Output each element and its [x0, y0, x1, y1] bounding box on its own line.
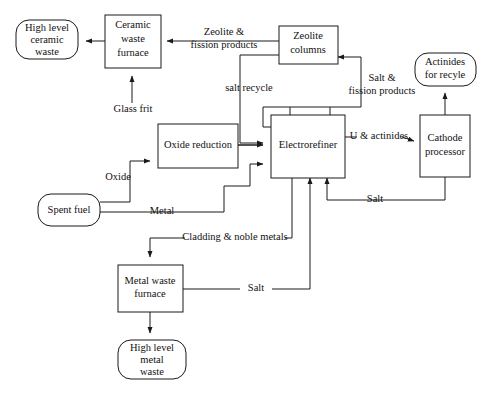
node-label-line-1: Electrorefiner: [279, 139, 338, 150]
edge-label-zeolite-fission-products-line1: Zeolite &: [204, 26, 245, 37]
node-label-line-1: High level: [25, 22, 69, 33]
node-label-line-1: Spent fuel: [48, 204, 91, 215]
node-high-level-metal-waste[interactable]: High level metal waste: [118, 340, 186, 379]
node-actinides-for-recycle[interactable]: Actinides for recyle: [415, 53, 476, 86]
node-label-line-2: columns: [290, 44, 326, 55]
node-label-line-2: ceramic: [30, 34, 64, 45]
node-label-line-3: waste: [140, 366, 164, 377]
edge-label-salt-fission-products-line2: fission products: [349, 85, 416, 96]
node-label-line-2: furnace: [134, 288, 166, 299]
node-zeolite-columns[interactable]: Zeolite columns: [279, 26, 338, 64]
node-label-line-3: furnace: [117, 47, 149, 58]
flow-diagram-canvas: High level ceramic waste Ceramic waste f…: [0, 0, 488, 397]
edge-label-glass-frit: Glass frit: [114, 103, 153, 114]
node-label-line-3: waste: [35, 46, 59, 57]
node-label-line-1: Zeolite: [293, 30, 323, 41]
edge-oxide-to-oxide-reduction: [130, 161, 150, 168]
edge-label-salt-recycle: salt recycle: [225, 82, 273, 93]
node-metal-waste-furnace[interactable]: Metal waste furnace: [118, 265, 183, 312]
node-label-line-1: High level: [130, 342, 174, 353]
edge-cladding-rail-right: [285, 178, 292, 238]
edge-label-zeolite-fission-products-line2: fission products: [191, 39, 258, 50]
node-label-line-2: waste: [121, 33, 145, 44]
edge-label-salt-from-cathode: Salt: [367, 193, 383, 204]
edge-label-salt-fission-products-line1: Salt &: [368, 72, 395, 83]
node-high-level-ceramic-waste[interactable]: High level ceramic waste: [16, 20, 78, 59]
node-label-line-2: for recyle: [425, 69, 466, 80]
node-label-line-2: processor: [425, 146, 466, 157]
node-label-line-1: Ceramic: [115, 19, 151, 30]
edge-label-cladding-noble-metals: Cladding & noble metals: [182, 231, 287, 242]
process-flow-diagram: High level ceramic waste Ceramic waste f…: [0, 0, 488, 397]
node-label-line-1: Metal waste: [124, 275, 175, 286]
edge-cladding-to-metal-waste-furnace: [150, 238, 185, 257]
node-electrorefiner[interactable]: Electrorefiner: [271, 115, 345, 178]
node-spent-fuel[interactable]: Spent fuel: [38, 194, 100, 226]
edge-label-u-and-actinides: U & actinides: [350, 130, 408, 141]
node-label-line-1: Cathode: [428, 132, 463, 143]
edge-salt-cathode-rail: [327, 177, 445, 200]
node-ceramic-waste-furnace[interactable]: Ceramic waste furnace: [105, 15, 161, 68]
node-cathode-processor[interactable]: Cathode processor: [420, 115, 470, 177]
node-label-line-2: metal: [140, 354, 163, 365]
edge-label-salt-from-metal-furnace: Salt: [248, 282, 264, 293]
edge-label-oxide: Oxide: [105, 171, 131, 182]
node-label-line-1: Oxide reduction: [164, 139, 233, 150]
node-label-line-1: Actinides: [425, 56, 465, 67]
edge-label-metal: Metal: [150, 205, 175, 216]
node-oxide-reduction[interactable]: Oxide reduction: [158, 124, 238, 168]
